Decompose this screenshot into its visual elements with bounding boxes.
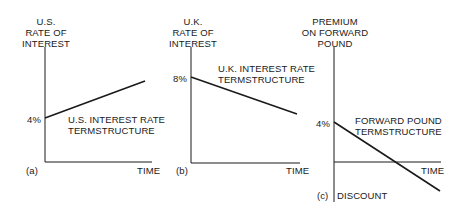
y-title-line: INTEREST bbox=[18, 38, 74, 49]
panel-b-curve-label: U.K. INTEREST RATE TERMSTRUCTURE bbox=[218, 63, 315, 85]
panel-b-y-tick: 8% bbox=[173, 73, 187, 84]
panel-a-curve-label: U.S. INTEREST RATE TERMSTRUCTURE bbox=[68, 114, 165, 136]
curve-label-line: TERMSTRUCTURE bbox=[355, 126, 442, 137]
panel-a-x-label: TIME bbox=[137, 165, 160, 176]
panel-c-discount-label: DISCOUNT bbox=[337, 190, 387, 201]
panel-a-tag: (a) bbox=[26, 165, 38, 176]
panel-b-y-title: U.K. RATE OF INTEREST bbox=[165, 16, 221, 49]
panel-a-y-tick: 4% bbox=[27, 114, 41, 125]
us-rate-curve bbox=[45, 81, 145, 118]
curve-label-line: FORWARD POUND bbox=[355, 115, 442, 126]
panel-a-axes bbox=[45, 47, 152, 162]
y-title-line: RATE OF bbox=[18, 27, 74, 38]
panel-c-y-title: PREMIUM ON FORWARD POUND bbox=[298, 16, 372, 49]
panel-c-x-label: TIME bbox=[421, 165, 444, 176]
panel-c-y-tick: 4% bbox=[316, 118, 330, 129]
curve-label-line: TERMSTRUCTURE bbox=[68, 125, 165, 136]
curve-label-line: TERMSTRUCTURE bbox=[218, 74, 315, 85]
y-title-line: INTEREST bbox=[165, 38, 221, 49]
y-title-line: PREMIUM bbox=[298, 16, 372, 27]
y-title-line: POUND bbox=[298, 38, 372, 49]
y-title-line: U.S. bbox=[18, 16, 74, 27]
panel-b-x-label: TIME bbox=[286, 165, 309, 176]
panel-a-y-title: U.S. RATE OF INTEREST bbox=[18, 16, 74, 49]
curve-label-line: U.S. INTEREST RATE bbox=[68, 114, 165, 125]
panel-b-tag: (b) bbox=[176, 165, 188, 176]
y-title-line: ON FORWARD bbox=[298, 27, 372, 38]
y-title-line: U.K. bbox=[165, 16, 221, 27]
panel-c-curve-label: FORWARD POUND TERMSTRUCTURE bbox=[355, 115, 442, 137]
y-title-line: RATE OF bbox=[165, 27, 221, 38]
curve-label-line: U.K. INTEREST RATE bbox=[218, 63, 315, 74]
panel-c-tag: (c) bbox=[317, 190, 328, 201]
